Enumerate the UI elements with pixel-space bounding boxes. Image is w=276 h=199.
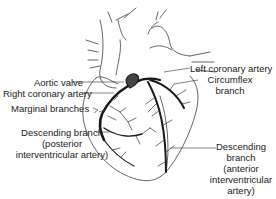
label-line: Descending (208, 141, 274, 152)
label-line: (anterior (208, 163, 274, 174)
aortic-valve-shape (126, 74, 139, 88)
label-line: artery) (208, 185, 274, 196)
label-line: interventricular artery) (14, 149, 110, 160)
label-posterior-descending-branch: Descending branch (posterior interventri… (14, 127, 110, 160)
label-circumflex-branch: Circumflex branch (200, 74, 260, 96)
label-left-coronary-artery: Left coronary artery (190, 63, 272, 74)
label-line: branch (208, 152, 274, 163)
label-aortic-valve: Aortic valve (34, 77, 83, 88)
label-line: Descending branch (14, 127, 110, 138)
label-line: Circumflex (200, 74, 260, 85)
label-marginal-branches: Marginal branches (11, 103, 89, 114)
label-anterior-descending-branch: Descending branch (anterior interventric… (208, 141, 274, 196)
label-line: (posterior (14, 138, 110, 149)
label-right-coronary-artery: Right coronary artery (3, 88, 92, 99)
label-line: interventricular (208, 174, 274, 185)
aorta-outline (100, 20, 116, 88)
anterior-descending (148, 82, 166, 172)
label-line: branch (200, 85, 260, 96)
